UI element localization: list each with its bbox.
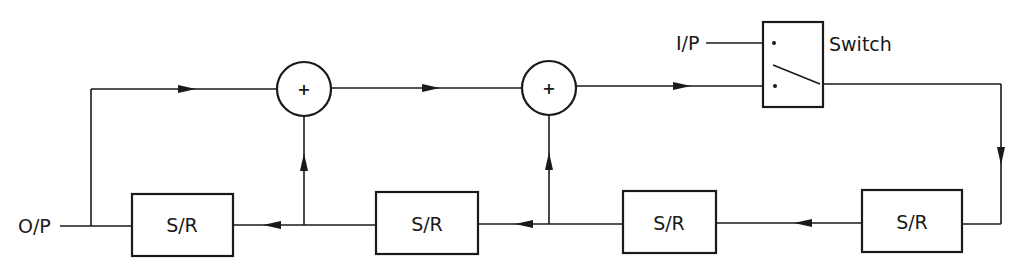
arrow-down-icon — [997, 147, 1005, 165]
switch-contact-bottom — [773, 84, 777, 88]
block-diagram: + + S/R S/R S/R S/R O/P I/P Switch — [0, 0, 1022, 275]
plus-icon: + — [297, 80, 310, 99]
arrow-left-icon — [263, 221, 281, 229]
input-label: I/P — [676, 32, 699, 54]
output-label: O/P — [18, 215, 51, 237]
arrow-right-icon — [178, 85, 196, 93]
arrow-right-icon — [673, 82, 691, 90]
plus-icon: + — [542, 79, 555, 98]
switch-label: Switch — [829, 33, 892, 55]
adder-1: + — [277, 62, 331, 116]
arrow-up-icon — [300, 153, 308, 171]
arrow-up-icon — [545, 152, 553, 170]
sr-label: S/R — [411, 213, 443, 235]
arrow-left-icon — [794, 219, 812, 227]
sr-label: S/R — [896, 211, 928, 233]
switch-contact-top — [772, 41, 776, 45]
shift-register-3: S/R — [623, 191, 716, 253]
adder-2: + — [522, 61, 576, 115]
arrow-left-icon — [515, 220, 533, 228]
sr-label: S/R — [653, 212, 685, 234]
shift-register-1: S/R — [132, 194, 233, 256]
shift-register-2: S/R — [376, 192, 478, 254]
switch — [763, 22, 823, 107]
shift-register-4: S/R — [862, 190, 962, 252]
sr-label: S/R — [166, 214, 198, 236]
arrow-right-icon — [422, 84, 440, 92]
